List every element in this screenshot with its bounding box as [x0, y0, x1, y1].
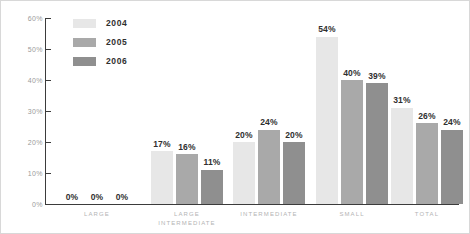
legend-item[interactable]: 2006	[73, 55, 127, 67]
legend-label: 2004	[106, 19, 127, 28]
y-axis-tick-label: 0%	[3, 201, 43, 208]
bar-group: 31%26%24%	[391, 18, 463, 204]
y-axis-tick	[45, 111, 51, 112]
y-axis-tick	[45, 80, 51, 81]
bar-item[interactable]: 39%	[366, 18, 388, 204]
bar-value-label: 24%	[443, 118, 461, 127]
bar-group: 20%24%20%	[233, 18, 305, 204]
category-label: TOTAL	[382, 210, 470, 219]
y-axis-tick-label: 30%	[3, 108, 43, 115]
bar-item[interactable]: 54%	[316, 18, 338, 204]
y-axis-tick	[45, 18, 51, 19]
y-axis-tick-label: 40%	[3, 77, 43, 84]
bar-value-label: 20%	[235, 131, 253, 140]
bar-value-label: 31%	[393, 96, 411, 105]
y-axis-tick-label: 60%	[3, 15, 43, 22]
legend-item[interactable]: 2005	[73, 36, 127, 48]
x-axis-line	[45, 204, 459, 205]
bar-group: 17%16%11%	[151, 18, 223, 204]
bar[interactable]	[416, 123, 438, 204]
y-axis-tick	[45, 142, 51, 143]
plot-area: 0%10%20%30%40%50%60% 0%0%0%17%16%11%20%2…	[1, 1, 470, 234]
y-axis-tick-label: 20%	[3, 139, 43, 146]
bar-group: 54%40%39%	[316, 18, 388, 204]
bar-item[interactable]: 11%	[201, 18, 223, 204]
legend-swatch	[73, 57, 96, 66]
bar-value-label: 26%	[418, 112, 436, 121]
category-label: LARGE	[52, 210, 142, 219]
bar[interactable]	[341, 80, 363, 204]
bar-value-label: 54%	[318, 25, 336, 34]
bar-item[interactable]: 40%	[341, 18, 363, 204]
legend-item[interactable]: 2004	[73, 17, 127, 29]
legend-label: 2005	[106, 38, 127, 47]
bar-item[interactable]: 20%	[283, 18, 305, 204]
y-axis-tick	[45, 49, 51, 50]
bar-value-label: 0%	[91, 193, 104, 202]
legend-label: 2006	[106, 57, 127, 66]
category-label: LARGE INTERMEDIATE	[142, 210, 232, 228]
y-axis-tick-label: 10%	[3, 170, 43, 177]
legend: 200420052006	[73, 17, 127, 74]
bar-chart: 0%10%20%30%40%50%60% 0%0%0%17%16%11%20%2…	[0, 0, 470, 234]
bar[interactable]	[258, 130, 280, 204]
bar-value-label: 16%	[178, 143, 196, 152]
bar[interactable]	[441, 130, 463, 204]
bar[interactable]	[283, 142, 305, 204]
y-axis-tick	[45, 173, 51, 174]
legend-swatch	[73, 38, 96, 47]
bar[interactable]	[366, 83, 388, 204]
bar-item[interactable]: 16%	[176, 18, 198, 204]
bar-value-label: 17%	[153, 140, 171, 149]
bar-value-label: 24%	[260, 118, 278, 127]
bar[interactable]	[233, 142, 255, 204]
bar-item[interactable]: 31%	[391, 18, 413, 204]
bar-value-label: 39%	[368, 72, 386, 81]
bar[interactable]	[176, 154, 198, 204]
bar-value-label: 0%	[66, 193, 79, 202]
y-axis-tick-label: 50%	[3, 46, 43, 53]
bar[interactable]	[151, 151, 173, 204]
bar-item[interactable]: 26%	[416, 18, 438, 204]
bar-value-label: 11%	[203, 158, 220, 167]
bar-item[interactable]: 24%	[441, 18, 463, 204]
bar-value-label: 0%	[116, 193, 129, 202]
bar-item[interactable]: 17%	[151, 18, 173, 204]
bar-item[interactable]: 20%	[233, 18, 255, 204]
bar[interactable]	[316, 37, 338, 204]
bar[interactable]	[201, 170, 223, 204]
bar[interactable]	[391, 108, 413, 204]
legend-swatch	[73, 19, 96, 28]
bar-item[interactable]: 24%	[258, 18, 280, 204]
bar-value-label: 20%	[285, 131, 303, 140]
category-label: INTERMEDIATE	[224, 210, 314, 219]
bar-value-label: 40%	[343, 69, 361, 78]
